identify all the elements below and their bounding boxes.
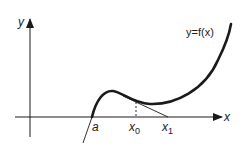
tangent-line: [123, 96, 168, 117]
curve-extension-line: [83, 117, 92, 143]
y-axis-label: y: [17, 15, 25, 29]
newton-method-diagram: y x y=f(x) a x0 x1: [0, 0, 243, 152]
root-label-a: a: [92, 120, 99, 134]
x-axis-label: x: [223, 110, 231, 124]
x1-label: x1: [161, 120, 173, 136]
x1-subscript: 1: [168, 126, 173, 136]
x0-subscript: 0: [135, 126, 140, 136]
diagram-svg: y x y=f(x) a x0 x1: [0, 0, 243, 152]
x0-label: x0: [128, 120, 140, 136]
curve-label: y=f(x): [186, 26, 214, 38]
